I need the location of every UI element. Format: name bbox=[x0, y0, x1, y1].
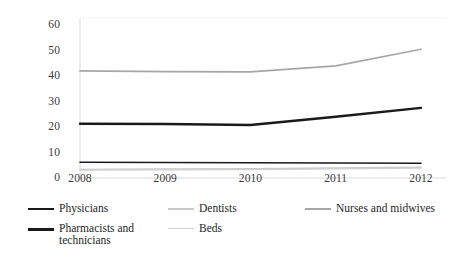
legend-line-icon bbox=[168, 228, 194, 229]
legend-item-label: Beds bbox=[199, 222, 222, 234]
y-tick-label: 10 bbox=[26, 147, 60, 159]
x-tick-label: 2008 bbox=[50, 172, 110, 184]
legend-item-label: Dentists bbox=[199, 202, 237, 214]
legend-line-icon bbox=[28, 228, 54, 231]
legend-item[interactable]: Pharmacists and technicians bbox=[28, 222, 134, 246]
legend-line-icon bbox=[168, 208, 194, 210]
series-line-physicians bbox=[80, 162, 421, 163]
legend-line-icon bbox=[305, 208, 331, 210]
chart-legend: PhysiciansDentistsNurses and midwivesPha… bbox=[0, 200, 453, 260]
x-tick-label: 2012 bbox=[391, 172, 451, 184]
y-tick-label: 50 bbox=[26, 45, 60, 57]
legend-item-label: Physicians bbox=[59, 202, 108, 214]
legend-item[interactable]: Beds bbox=[168, 222, 222, 234]
x-tick-label: 2011 bbox=[306, 172, 366, 184]
x-tick-label: 2010 bbox=[221, 172, 281, 184]
y-tick-label: 30 bbox=[26, 96, 60, 108]
legend-item[interactable]: Dentists bbox=[168, 202, 237, 214]
y-tick-label: 20 bbox=[26, 121, 60, 133]
legend-item-label: Nurses and midwives bbox=[336, 202, 435, 214]
legend-item[interactable]: Physicians bbox=[28, 202, 108, 214]
legend-item-label: Pharmacists and technicians bbox=[59, 222, 134, 246]
y-tick-label: 40 bbox=[26, 70, 60, 82]
series-line-pharmacists-and-technicians bbox=[80, 108, 421, 125]
y-tick-label: 60 bbox=[26, 19, 60, 31]
series-line-nurses-and-midwives bbox=[80, 49, 421, 72]
plot-area bbox=[0, 0, 453, 196]
x-tick-label: 2009 bbox=[135, 172, 195, 184]
legend-item[interactable]: Nurses and midwives bbox=[305, 202, 435, 214]
legend-line-icon bbox=[28, 208, 54, 210]
plot-svg bbox=[0, 0, 453, 196]
line-chart: 6050403020100 20082009201020112012 Physi… bbox=[0, 0, 453, 260]
